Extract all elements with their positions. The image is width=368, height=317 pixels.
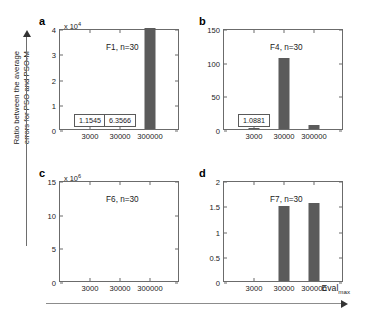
bar-b-30000 [279, 58, 290, 129]
y-tick-mark-right-d-3 [339, 207, 342, 208]
y-axis-label-line1: Ratio between the average [12, 0, 22, 198]
x-tick-label-b-2: 300000 [301, 129, 326, 141]
panel-letter-c: c [39, 168, 45, 179]
panel-letter-a: a [39, 16, 45, 27]
y-tick-label-d-2: 1 [216, 228, 224, 237]
x-tick-label-a-2: 300000 [137, 129, 162, 141]
y-tick-label-c-2: 10 [48, 211, 60, 220]
bar-b-3000 [249, 128, 260, 129]
plot-inner-b: 050100150300030000300000F4, n=301.0881 [224, 30, 342, 129]
y-tick-mark-c-0 [60, 283, 63, 284]
y-tick-mark-right-b-3 [339, 30, 342, 31]
plot-inner-c: 051015300030000300000F6, n=30 [60, 182, 178, 281]
x-tick-mark-top-a-0 [90, 30, 91, 33]
y-axis-arrow [26, 36, 27, 246]
plot-inner-d: 00.511.52300030000300000F7, n=30 [224, 182, 342, 281]
x-tick-mark-top-d-1 [284, 182, 285, 185]
plot-inner-a: 01234300030000300000F1, n=301.15456.3566 [60, 30, 178, 129]
y-tick-label-c-1: 5 [52, 245, 60, 254]
y-tick-mark-right-b-0 [339, 131, 342, 132]
y-tick-mark-d-3 [224, 207, 227, 208]
y-tick-mark-a-3 [60, 55, 63, 56]
x-tick-label-a-0: 3000 [82, 129, 99, 141]
y-tick-label-a-1: 1 [52, 101, 60, 110]
x-tick-label-b-1: 30000 [273, 129, 294, 141]
panel-letter-b: b [199, 16, 206, 27]
y-tick-label-c-3: 15 [48, 178, 60, 187]
x-tick-label-c-1: 30000 [109, 281, 130, 293]
x-tick-mark-top-a-1 [120, 30, 121, 33]
y-tick-mark-d-0 [224, 283, 227, 284]
y-tick-label-b-3: 150 [207, 26, 224, 35]
annotation-box-a-1: 6.3566 [104, 114, 136, 127]
x-axis-arrow [46, 303, 342, 304]
y-tick-mark-b-2 [224, 63, 227, 64]
y-axis-multiplier-exponent-a: 4 [78, 21, 81, 27]
y-tick-mark-b-0 [224, 131, 227, 132]
x-tick-mark-c-2 [150, 278, 151, 281]
y-tick-label-a-3: 3 [52, 51, 60, 60]
bar-a-300000 [145, 28, 156, 129]
y-tick-mark-d-2 [224, 232, 227, 233]
panel-title-d: F7, n=30 [270, 195, 303, 204]
y-tick-mark-right-d-2 [339, 232, 342, 233]
y-tick-mark-c-3 [60, 182, 63, 183]
y-tick-mark-d-4 [224, 182, 227, 183]
y-tick-mark-right-a-4 [175, 30, 178, 31]
y-tick-label-a-4: 4 [52, 26, 60, 35]
panel-title-a: F1, n=30 [106, 43, 139, 52]
y-tick-label-a-2: 2 [52, 76, 60, 85]
y-tick-mark-a-2 [60, 80, 63, 81]
y-tick-mark-right-b-1 [339, 97, 342, 98]
y-tick-mark-right-c-0 [175, 283, 178, 284]
y-tick-mark-d-1 [224, 257, 227, 258]
plot-area-d: 00.511.52300030000300000F7, n=30 [223, 181, 343, 282]
y-tick-mark-right-a-1 [175, 105, 178, 106]
y-tick-mark-a-1 [60, 105, 63, 106]
x-tick-mark-top-d-0 [254, 182, 255, 185]
annotation-box-a-0: 1.1545 [74, 114, 106, 127]
y-tick-mark-a-4 [60, 30, 63, 31]
y-tick-label-b-0: 0 [216, 127, 224, 136]
plot-area-a: 01234300030000300000F1, n=301.15456.3566 [59, 29, 179, 130]
x-tick-mark-top-d-2 [314, 182, 315, 185]
x-tick-label-c-0: 3000 [82, 281, 99, 293]
y-tick-label-d-0: 0 [216, 279, 224, 288]
x-tick-mark-top-c-2 [150, 182, 151, 185]
y-tick-label-c-0: 0 [52, 279, 60, 288]
y-tick-mark-right-b-2 [339, 63, 342, 64]
x-tick-label-d-1: 30000 [273, 281, 294, 293]
y-axis-multiplier-exponent-c: 6 [78, 173, 81, 179]
y-tick-label-b-2: 100 [207, 59, 224, 68]
x-tick-label-a-1: 30000 [109, 129, 130, 141]
y-tick-label-d-3: 1.5 [209, 203, 224, 212]
y-tick-mark-c-1 [60, 249, 63, 250]
y-tick-label-a-0: 0 [52, 127, 60, 136]
bar-b-300000 [309, 125, 320, 129]
y-tick-mark-right-c-2 [175, 215, 178, 216]
x-tick-mark-top-b-0 [254, 30, 255, 33]
y-tick-mark-b-1 [224, 97, 227, 98]
y-tick-mark-right-a-0 [175, 131, 178, 132]
y-tick-mark-right-a-2 [175, 80, 178, 81]
y-tick-mark-right-d-0 [339, 283, 342, 284]
x-tick-mark-d-0 [254, 278, 255, 281]
panel-letter-d: d [199, 168, 206, 179]
plot-area-c: 051015300030000300000F6, n=30 [59, 181, 179, 282]
x-tick-label-d-2: 300000 [301, 281, 326, 293]
x-tick-mark-top-c-0 [90, 182, 91, 185]
x-tick-label-b-0: 3000 [246, 129, 263, 141]
y-tick-mark-right-d-4 [339, 182, 342, 183]
y-tick-label-d-4: 2 [216, 178, 224, 187]
y-tick-label-d-1: 0.5 [209, 253, 224, 262]
y-tick-mark-a-0 [60, 131, 63, 132]
x-tick-mark-c-1 [120, 278, 121, 281]
plot-area-b: 050100150300030000300000F4, n=301.0881 [223, 29, 343, 130]
x-tick-mark-top-c-1 [120, 182, 121, 185]
panel-title-b: F4, n=30 [270, 43, 303, 52]
y-tick-mark-c-2 [60, 215, 63, 216]
x-tick-mark-c-0 [90, 278, 91, 281]
panel-title-c: F6, n=30 [106, 195, 139, 204]
x-tick-mark-top-b-1 [284, 30, 285, 33]
y-tick-mark-right-c-3 [175, 182, 178, 183]
